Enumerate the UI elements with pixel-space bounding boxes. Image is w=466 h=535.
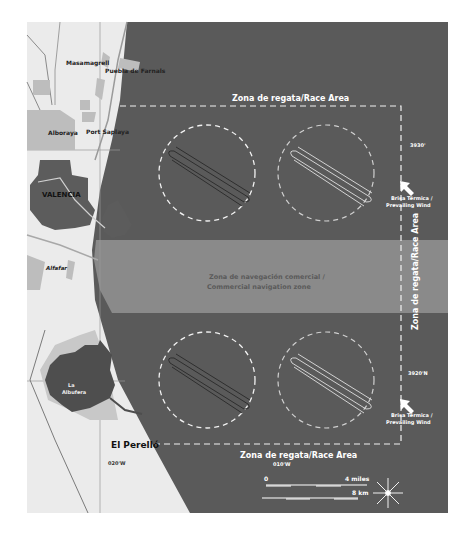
compass-rose-icon (373, 478, 403, 508)
wind-label-lower-2: Prevailing Wind (386, 419, 431, 426)
nav-zone-line1: Zona de navegación comercial / (209, 273, 326, 281)
nav-zone-line2: Commercial navigation zone (207, 283, 311, 291)
label-puebla-de-farnals: Puebla de Farnals (105, 67, 166, 74)
urban-area (82, 112, 96, 122)
label-masamagrell: Masamagrell (66, 59, 109, 67)
wind-label-lower-1: Brisa Térmica / (391, 412, 433, 418)
label-port-saplaya: Port Saplaya (86, 128, 129, 136)
label-valencia: VALENCIA (42, 191, 81, 199)
longitude-center: 010'W (273, 461, 291, 467)
race-area-map: Masamagrell Puebla de Farnals Alboraya P… (0, 0, 466, 535)
scale-miles: 4 miles (345, 475, 370, 482)
label-la-albufera-2: Albufera (62, 389, 86, 395)
latitude-upper: 3930' (410, 142, 426, 148)
latitude-lower: 3920'N (408, 370, 428, 376)
race-area-label-top: Zona de regata/Race Area (232, 94, 349, 103)
label-alboraya: Alboraya (48, 129, 78, 137)
longitude-left: 020'W (108, 460, 126, 466)
label-alfafar: Alfafar (45, 265, 67, 271)
wind-label-upper-2: Prevailing Wind (386, 202, 431, 209)
race-area-label-bottom: Zona de regata/Race Area (240, 451, 357, 460)
label-la-albufera-1: La (68, 382, 75, 388)
scale-zero: 0 (264, 475, 268, 482)
wind-label-upper-1: Brisa Térmica / (391, 195, 433, 201)
urban-area (80, 100, 90, 110)
label-el-perello: El Perelló (111, 440, 159, 450)
scale-km: 8 km (352, 489, 369, 496)
urban-area (33, 80, 50, 95)
race-area-label-side: Zona de regata/Race Area (411, 213, 420, 330)
